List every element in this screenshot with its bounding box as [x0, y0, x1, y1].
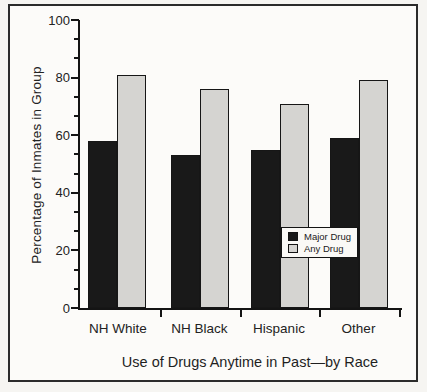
legend-label-any-drug: Any Drug [304, 244, 344, 254]
y-minor-tick [74, 115, 79, 117]
scanned-chart-figure: Percentage of Inmates in Group 020406080… [0, 0, 427, 392]
bar-major-drug-nh-black [171, 155, 200, 308]
x-tick [160, 310, 162, 317]
legend-swatch-any-drug [288, 244, 298, 253]
bar-major-drug-hispanic [251, 150, 280, 308]
y-tick-40 [71, 192, 79, 194]
y-minor-tick [74, 211, 79, 213]
y-axis-line [78, 20, 80, 310]
y-tick-label-80: 80 [36, 71, 70, 84]
category-label-nh-white: NH White [73, 321, 163, 336]
y-tick-label-100: 100 [36, 14, 70, 27]
bar-any-drug-hispanic [280, 104, 309, 308]
y-tick-0 [71, 307, 79, 309]
x-tick [319, 310, 321, 317]
y-minor-tick [74, 288, 79, 290]
y-minor-tick [74, 57, 79, 59]
legend-swatch-major-drug [288, 232, 298, 241]
x-tick [399, 310, 401, 317]
legend-row-major-drug: Major Drug [288, 231, 357, 242]
bar-any-drug-other [359, 80, 388, 308]
y-tick-80 [71, 77, 79, 79]
legend-row-any-drug: Any Drug [288, 243, 357, 254]
y-tick-label-20: 20 [36, 244, 70, 257]
y-tick-label-40: 40 [36, 186, 70, 199]
x-axis-caption: Use of Drugs Anytime in Past—by Race [85, 354, 415, 370]
bar-any-drug-nh-black [200, 89, 229, 308]
legend: Major Drug Any Drug [281, 227, 358, 258]
y-minor-tick [74, 173, 79, 175]
y-minor-tick [74, 38, 79, 40]
y-tick-label-60: 60 [36, 129, 70, 142]
x-tick [240, 310, 242, 317]
y-minor-tick [74, 96, 79, 98]
y-minor-tick [74, 230, 79, 232]
category-label-nh-black: NH Black [155, 321, 245, 336]
y-minor-tick [74, 153, 79, 155]
y-tick-label-0: 0 [36, 302, 70, 315]
y-tick-20 [71, 249, 79, 251]
y-axis-title: Percentage of Inmates in Group [29, 66, 44, 263]
y-tick-60 [71, 134, 79, 136]
legend-label-major-drug: Major Drug [304, 232, 351, 242]
category-label-other: Other [314, 321, 404, 336]
bar-major-drug-nh-white [88, 141, 117, 308]
y-tick-100 [71, 19, 79, 21]
bar-any-drug-nh-white [117, 75, 146, 308]
category-label-hispanic: Hispanic [234, 321, 324, 336]
bar-major-drug-other [330, 138, 359, 308]
y-minor-tick [74, 269, 79, 271]
